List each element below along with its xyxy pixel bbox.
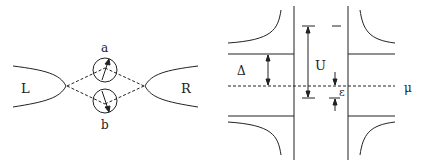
dot-b-label: b [101, 118, 109, 132]
charging-energy-label: U [315, 58, 326, 73]
lead-left-label: L [21, 81, 30, 96]
right-dos-lower [360, 122, 395, 155]
left-dos-lower [228, 122, 281, 155]
diagram-canvas: L R a b Δ U ε μ [0, 0, 427, 168]
gap-label: Δ [237, 64, 246, 78]
level-label: ε [339, 86, 345, 99]
tunneling-paths [67, 68, 144, 104]
left-dos-upper [228, 10, 281, 43]
chemical-potential-label: μ [404, 81, 412, 95]
right-dos-upper [360, 10, 395, 43]
dot-a-label: a [101, 41, 108, 55]
lead-right-label: R [181, 81, 192, 96]
